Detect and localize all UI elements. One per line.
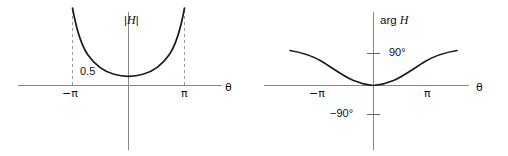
magnitude-bar-close: | — [136, 14, 139, 26]
phase-xtick-neg-pi: −π — [309, 88, 325, 99]
phase-response-plot: arg H 90° −90° −π π θ — [254, 0, 508, 156]
phase-y-axis-label: arg H — [380, 14, 409, 27]
magnitude-symbol-h: H — [127, 13, 136, 27]
magnitude-y-axis-label: |H| — [124, 14, 139, 27]
phase-ytick-label-positive: 90° — [389, 47, 406, 58]
magnitude-xtick-neg-pi: −π — [62, 88, 78, 99]
phase-ytick-label-negative: −90° — [330, 108, 353, 119]
phase-xtick-pos-pi: π — [424, 88, 431, 99]
magnitude-x-axis-label: θ — [225, 82, 232, 93]
phase-symbol-h: H — [400, 13, 409, 27]
magnitude-xtick-pos-pi: π — [181, 88, 188, 99]
magnitude-min-value-label: 0.5 — [80, 66, 95, 77]
figure-two-panel-frequency-response: |H| 0.5 −π π θ arg H 90° −90° −π π θ — [0, 0, 508, 156]
magnitude-response-plot: |H| 0.5 −π π θ — [0, 0, 254, 156]
phase-x-axis-label: θ — [476, 82, 483, 93]
phase-arg-text: arg — [380, 14, 400, 26]
